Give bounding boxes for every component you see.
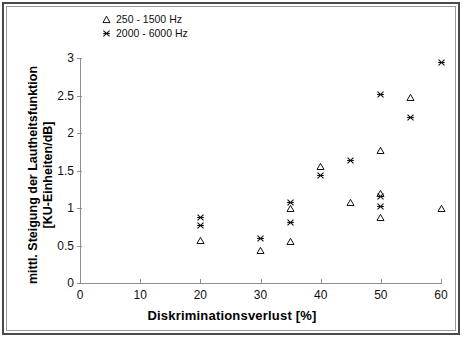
x-tick-label-40: 40 xyxy=(314,288,327,302)
x-tick-label-50: 50 xyxy=(374,288,387,302)
y-tick-1 xyxy=(77,208,82,209)
data-point-s1-3 xyxy=(286,218,295,227)
data-point-s0-5 xyxy=(346,198,355,207)
data-point-s1-8 xyxy=(376,192,385,201)
data-point-s1-5 xyxy=(316,171,325,180)
x-axis-title: Diskriminationsverlust [%] xyxy=(0,308,464,323)
data-point-s1-9 xyxy=(376,90,385,99)
data-point-s1-0 xyxy=(196,221,205,230)
data-point-s0-0 xyxy=(196,236,205,245)
data-point-s1-7 xyxy=(376,202,385,211)
data-point-s1-6 xyxy=(346,156,355,165)
data-point-s1-4 xyxy=(286,198,295,207)
y-tick-0.5 xyxy=(77,246,82,247)
data-point-s0-7 xyxy=(376,189,385,198)
data-point-s0-10 xyxy=(437,204,446,213)
x-tick-40 xyxy=(321,279,322,284)
x-tick-50 xyxy=(381,279,382,284)
x-tick-label-60: 60 xyxy=(434,288,447,302)
y-tick-2.5 xyxy=(77,96,82,97)
data-point-s1-2 xyxy=(256,234,265,243)
data-point-s1-10 xyxy=(406,113,415,122)
x-tick-30 xyxy=(261,279,262,284)
y-tick-3 xyxy=(77,58,82,59)
plot-area: 0102030405060 00.511.522.53 xyxy=(0,0,464,339)
x-tick-label-0: 0 xyxy=(77,288,84,302)
data-point-s0-2 xyxy=(286,237,295,246)
data-point-s0-4 xyxy=(316,162,325,171)
data-point-s1-1 xyxy=(196,213,205,222)
data-point-s0-1 xyxy=(256,246,265,255)
y-axis-title: mittl. Steigung der Lautheitsfunktion [K… xyxy=(26,50,56,300)
x-tick-10 xyxy=(140,279,141,284)
data-point-s1-11 xyxy=(437,58,446,67)
y-axis-title-line2: [KU-Einheiten/dB] xyxy=(41,50,56,300)
y-tick-2 xyxy=(77,133,82,134)
y-tick-1.5 xyxy=(77,171,82,172)
x-tick-60 xyxy=(441,279,442,284)
data-point-s0-9 xyxy=(406,93,415,102)
chart-figure: 250 - 1500 Hz 2000 - 6000 Hz 01020304050… xyxy=(0,0,464,339)
data-point-s0-8 xyxy=(376,146,385,155)
x-tick-label-30: 30 xyxy=(254,288,267,302)
y-axis-title-line1: mittl. Steigung der Lautheitsfunktion xyxy=(26,50,41,300)
x-tick-label-20: 20 xyxy=(194,288,207,302)
data-point-s0-6 xyxy=(376,213,385,222)
data-point-s0-3 xyxy=(286,204,295,213)
x-tick-20 xyxy=(200,279,201,284)
y-tick-0 xyxy=(77,283,82,284)
x-tick-label-10: 10 xyxy=(133,288,146,302)
